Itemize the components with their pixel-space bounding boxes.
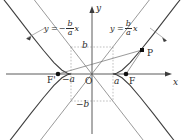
asymptote-right-fraction: b a [125, 20, 132, 38]
point-p-marker [140, 48, 144, 52]
asymptote-left-denominator: a [67, 29, 74, 37]
asymptote-left-sign: − [59, 25, 66, 33]
y-axis [89, 6, 94, 134]
asymptote-right-equation: y = b a x [110, 20, 137, 38]
asymptote-right-numerator: b [125, 20, 132, 28]
tick-label-a-negative: −a [62, 75, 75, 84]
point-p-label: P [147, 49, 153, 58]
hyperbola-figure: y x O F' F P a −a b −b y = − b a x y = b… [0, 0, 190, 140]
asymptote-left-variable: x [75, 25, 80, 33]
origin-label: O [85, 77, 92, 86]
hyperbola-canvas [0, 0, 190, 140]
tick-label-b-negative: −b [76, 100, 89, 109]
asymptote-right-lhs: y = [110, 25, 124, 33]
focus-left-marker [56, 72, 61, 77]
asymptote-right-denominator: a [125, 29, 132, 37]
focus-right-marker [124, 72, 129, 77]
tick-label-b-positive: b [82, 41, 88, 50]
y-axis-label: y [96, 4, 101, 13]
asymptote-right-variable: x [133, 25, 138, 33]
asymptote-left-fraction: b a [66, 20, 73, 38]
asymptote-negative-slope [8, 0, 185, 140]
asymptote-left-lhs: y = [44, 25, 58, 33]
x-axis-label: x [173, 78, 178, 87]
tick-label-a-positive: a [114, 77, 119, 86]
focus-left-label: F' [47, 76, 56, 85]
asymptote-left-numerator: b [66, 20, 73, 28]
asymptote-lines [8, 0, 185, 140]
asymptote-left-equation: y = − b a x [44, 20, 79, 38]
asymptote-positive-slope [8, 0, 185, 140]
focal-radii [58, 50, 142, 74]
segment-f-prime-to-p [58, 50, 142, 74]
focus-right-label: F [129, 77, 135, 86]
